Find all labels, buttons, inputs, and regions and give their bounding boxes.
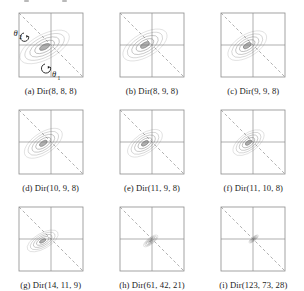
panel-f-plot <box>214 103 292 181</box>
panel-f-caption: (f) Dir(11, 10, 8) <box>224 183 283 194</box>
cropped-text-remnants <box>0 0 304 4</box>
panel-g-caption: (g) Dir(14, 11, 9) <box>20 280 81 291</box>
panel-h-plot <box>113 200 191 278</box>
panel-d-plot <box>12 103 90 181</box>
panel-f <box>214 103 292 181</box>
svg-text:θ: θ <box>13 28 17 38</box>
figure-row-1: θ2θ1 (a) Dir(8, 8, 8) (b) Dir(8, 9, 8) (… <box>0 0 304 97</box>
panel-cell-f: (f) Dir(11, 10, 8) <box>203 97 304 194</box>
figure-row-3: (g) Dir(14, 11, 9) (h) Dir(61, 42, 21) (… <box>0 194 304 291</box>
panel-c <box>214 6 292 84</box>
panel-i-plot <box>214 200 292 278</box>
panel-e-caption: (e) Dir(11, 9, 8) <box>124 183 180 194</box>
panel-b-plot <box>113 6 191 84</box>
panel-cell-i: (i) Dir(123, 73, 28) <box>203 194 304 291</box>
panel-a-caption: (a) Dir(8, 8, 8) <box>25 86 77 97</box>
panel-i <box>214 200 292 278</box>
panel-g <box>12 200 90 278</box>
panel-h-caption: (h) Dir(61, 42, 21) <box>119 280 185 291</box>
panel-h <box>113 200 191 278</box>
panel-d-caption: (d) Dir(10, 9, 8) <box>22 183 79 194</box>
panel-i-caption: (i) Dir(123, 73, 28) <box>219 280 287 291</box>
panel-c-plot <box>214 6 292 84</box>
figure-row-2: (d) Dir(10, 9, 8) (e) Dir(11, 9, 8) (f) … <box>0 97 304 194</box>
panel-d <box>12 103 90 181</box>
panel-a: θ2θ1 <box>12 6 90 84</box>
panel-c-caption: (c) Dir(9, 9, 8) <box>227 86 279 97</box>
panel-cell-d: (d) Dir(10, 9, 8) <box>0 97 101 194</box>
svg-text:1: 1 <box>57 75 60 81</box>
panel-b-caption: (b) Dir(8, 9, 8) <box>126 86 178 97</box>
panel-b <box>113 6 191 84</box>
panel-cell-b: (b) Dir(8, 9, 8) <box>101 0 202 97</box>
panel-cell-c: (c) Dir(9, 9, 8) <box>203 0 304 97</box>
panel-a-plot: θ2θ1 <box>12 6 90 84</box>
panel-g-plot <box>12 200 90 278</box>
svg-text:θ: θ <box>52 69 56 79</box>
panel-e <box>113 103 191 181</box>
panel-cell-h: (h) Dir(61, 42, 21) <box>101 194 202 291</box>
panel-cell-a: θ2θ1 (a) Dir(8, 8, 8) <box>0 0 101 97</box>
panel-cell-e: (e) Dir(11, 9, 8) <box>101 97 202 194</box>
panel-e-plot <box>113 103 191 181</box>
panel-cell-g: (g) Dir(14, 11, 9) <box>0 194 101 291</box>
